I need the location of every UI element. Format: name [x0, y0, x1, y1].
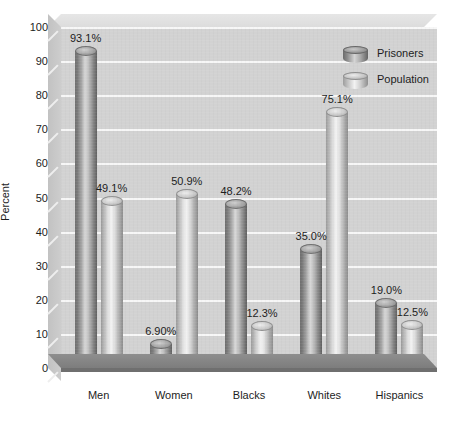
chart-3d-top-face: [48, 14, 437, 27]
bar-whites-prisoners[interactable]: [300, 244, 322, 368]
y-tick-label: 10: [20, 329, 48, 340]
y-tick-label: 70: [20, 124, 48, 135]
bar-value-label: 12.5%: [382, 306, 442, 318]
bar-top-cap: [225, 199, 247, 209]
y-tick-label: 100: [20, 22, 48, 33]
legend-item-population[interactable]: Population: [343, 70, 443, 96]
bar-body: [75, 51, 97, 368]
bar-value-label: 19.0%: [356, 284, 416, 296]
bar-top-cap: [326, 107, 348, 117]
legend-label-prisoners: Prisoners: [377, 47, 423, 59]
y-tick-label: 80: [20, 90, 48, 101]
cylinder-swatch-icon: [343, 46, 368, 63]
bar-men-prisoners[interactable]: [75, 46, 97, 368]
bar-body: [176, 194, 198, 368]
y-tick-label: 20: [20, 295, 48, 306]
gridline: [61, 163, 437, 165]
chart-floor: [48, 354, 437, 368]
bar-top-cap: [75, 46, 97, 56]
axis-tick: [47, 371, 58, 382]
bar-top-cap: [300, 244, 322, 254]
bar-women-population[interactable]: [176, 189, 198, 368]
bar-value-label: 93.1%: [56, 32, 116, 44]
gridline: [61, 129, 437, 131]
y-tick-label: 50: [20, 193, 48, 204]
y-axis-title: Percent: [0, 183, 11, 221]
bar-blacks-prisoners[interactable]: [225, 199, 247, 368]
y-axis-tick-labels: 1009080706050403020100: [8, 0, 48, 432]
bar-men-population[interactable]: [101, 196, 123, 368]
bar-value-label: 48.2%: [206, 185, 266, 197]
y-tick-label: 0: [20, 363, 48, 374]
bar-value-label: 12.3%: [232, 307, 292, 319]
bar-value-label: 35.0%: [281, 230, 341, 242]
cylinder-swatch-icon: [343, 72, 368, 89]
y-tick-label: 40: [20, 227, 48, 238]
bar-top-cap: [101, 196, 123, 206]
legend: Prisoners Population: [343, 44, 443, 96]
x-tick-label-hispanics: Hispanics: [359, 389, 439, 401]
chart-floor-front-edge: [61, 368, 437, 372]
bar-body: [225, 204, 247, 368]
y-tick-label: 60: [20, 158, 48, 169]
bar-top-cap: [251, 321, 273, 331]
legend-item-prisoners[interactable]: Prisoners: [343, 44, 443, 70]
legend-label-population: Population: [377, 73, 429, 85]
bar-value-label: 6.90%: [131, 325, 191, 337]
x-tick-label-men: Men: [59, 389, 139, 401]
x-tick-label-blacks: Blacks: [209, 389, 289, 401]
bar-body: [101, 201, 123, 368]
bar-body: [300, 249, 322, 368]
y-tick-label: 30: [20, 261, 48, 272]
y-tick-label: 90: [20, 56, 48, 67]
x-tick-label-women: Women: [134, 389, 214, 401]
gridline: [61, 27, 437, 29]
x-tick-label-whites: Whites: [284, 389, 364, 401]
bar-value-label: 49.1%: [82, 182, 142, 194]
bar-chart: 1009080706050403020100 Percent MenWomenB…: [0, 0, 457, 432]
